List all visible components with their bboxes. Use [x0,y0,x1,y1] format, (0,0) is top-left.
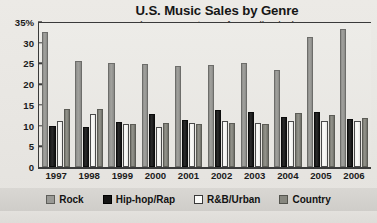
x-axis-label-2006: 2006 [337,170,370,184]
x-axis-label-2004: 2004 [271,170,304,184]
y-axis-labels: 05101520253035% [0,22,34,168]
legend-label: R&B/Urban [207,194,260,205]
bar-rock-2006 [340,29,346,167]
bar-group-2000 [139,22,172,167]
bar-rnb-2005 [321,121,327,167]
bottom-strip [0,211,377,223]
bar-group-2003 [238,22,271,167]
legend-label: Country [292,194,330,205]
bar-rnb-2001 [189,123,195,167]
bar-rnb-2003 [255,123,261,167]
y-axis-tick-label: 5 [29,141,34,152]
bar-rnb-2006 [354,121,360,167]
bar-rock-2002 [208,65,214,167]
bar-country-1997 [64,109,70,167]
legend-item-rock[interactable]: Rock [46,194,83,205]
legend-swatch-rock-icon [46,195,55,204]
bar-country-2006 [362,118,368,167]
x-axis-line [38,167,371,169]
y-axis-tick-label: 10 [23,120,34,131]
x-axis-label-2002: 2002 [205,170,238,184]
legend-item-country[interactable]: Country [279,194,330,205]
chart-legend: RockHip-hop/RapR&B/UrbanCountry [0,188,377,211]
bar-group-1998 [73,22,106,167]
bar-rnb-2000 [156,127,162,167]
x-axis-label-2003: 2003 [238,170,271,184]
y-axis-tick-label: 35% [15,17,34,28]
x-axis-label-2001: 2001 [172,170,205,184]
chart-title: U.S. Music Sales by Genre [62,4,372,18]
legend-swatch-rnb-icon [194,195,203,204]
bar-group-2001 [172,22,205,167]
bar-rnb-1997 [57,121,63,167]
bar-rock-1998 [75,61,81,167]
x-axis-label-2005: 2005 [304,170,337,184]
bar-rock-2003 [241,63,247,167]
bar-group-2002 [205,22,238,167]
bar-country-2000 [163,123,169,167]
bar-country-2003 [262,124,268,167]
bar-hiphop-2000 [149,114,155,167]
bar-hiphop-2004 [281,117,287,167]
y-axis-tick-label: 15 [23,99,34,110]
legend-label: Rock [59,194,83,205]
bar-hiphop-1997 [49,126,55,167]
bar-country-2001 [196,124,202,168]
bar-rnb-2004 [288,121,294,167]
bar-group-1997 [40,22,73,167]
bar-rock-1997 [42,32,48,167]
bar-group-2004 [271,22,304,167]
legend-item-hiphop[interactable]: Hip-hop/Rap [103,194,175,205]
bar-country-2002 [229,123,235,167]
bar-rnb-2002 [222,121,228,167]
x-axis-labels: 1997199819992000200120022003200420052006 [40,170,371,184]
bar-hiphop-2001 [182,120,188,167]
legend-swatch-country-icon [279,195,288,204]
bar-hiphop-2005 [314,112,320,167]
bar-group-2005 [304,22,337,167]
x-axis-label-1999: 1999 [106,170,139,184]
bar-hiphop-1998 [83,127,89,167]
bar-country-1998 [97,109,103,167]
legend-item-rnb[interactable]: R&B/Urban [194,194,260,205]
chart-container: U.S. Music Sales by Genre (as a percenta… [0,0,377,223]
bar-groups [40,22,371,167]
y-axis-tick-label: 0 [29,162,34,173]
bar-rnb-1999 [123,124,129,168]
y-axis-tick-label: 25 [23,58,34,69]
bar-country-1999 [130,124,136,168]
y-axis-tick-label: 30 [23,37,34,48]
bar-rock-2001 [175,66,181,167]
bar-country-2004 [295,113,301,167]
x-axis-label-1998: 1998 [73,170,106,184]
bar-rock-2005 [307,37,313,168]
bar-rock-2004 [274,70,280,167]
bar-hiphop-2006 [347,119,353,167]
bar-group-1999 [106,22,139,167]
bar-rock-2000 [142,64,148,167]
bar-rock-1999 [108,63,114,167]
bar-hiphop-2002 [215,110,221,167]
bar-hiphop-1999 [116,122,122,167]
bar-country-2005 [329,115,335,167]
bar-hiphop-2003 [248,112,254,167]
legend-label: Hip-hop/Rap [116,194,175,205]
legend-swatch-hiphop-icon [103,195,112,204]
bar-group-2006 [337,22,370,167]
x-axis-label-2000: 2000 [139,170,172,184]
y-axis-tick-label: 20 [23,79,34,90]
bar-rnb-1998 [90,114,96,167]
x-axis-label-1997: 1997 [40,170,73,184]
